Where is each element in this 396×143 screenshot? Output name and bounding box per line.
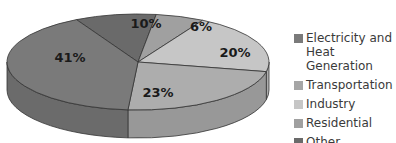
legend-label: Electricity and Heat Generation	[306, 31, 396, 73]
slice-label: 41%	[54, 50, 85, 65]
legend-label: Transportation	[306, 78, 393, 92]
legend-swatch	[294, 100, 303, 109]
legend-swatch	[294, 138, 303, 143]
legend-label: Residential	[306, 116, 372, 130]
legend-label: Other	[306, 135, 340, 143]
legend-swatch	[294, 34, 303, 43]
slice-label: 10%	[130, 16, 161, 31]
legend-item-industry: Industry	[294, 97, 396, 111]
legend-item-other: Other	[294, 135, 396, 143]
slice-label: 20%	[219, 45, 250, 60]
slice-label: 6%	[190, 19, 212, 34]
legend-item-residential: Residential	[294, 116, 396, 130]
legend-item-electricity: Electricity and Heat Generation	[294, 31, 396, 73]
legend-swatch	[294, 119, 303, 128]
legend: Electricity and Heat Generation Transpor…	[294, 31, 396, 143]
legend-item-transportation: Transportation	[294, 78, 396, 92]
pie-chart: 10%6%20%23%41%	[0, 0, 280, 143]
legend-label: Industry	[306, 97, 355, 111]
legend-swatch	[294, 81, 303, 90]
slice-label: 23%	[142, 85, 173, 100]
